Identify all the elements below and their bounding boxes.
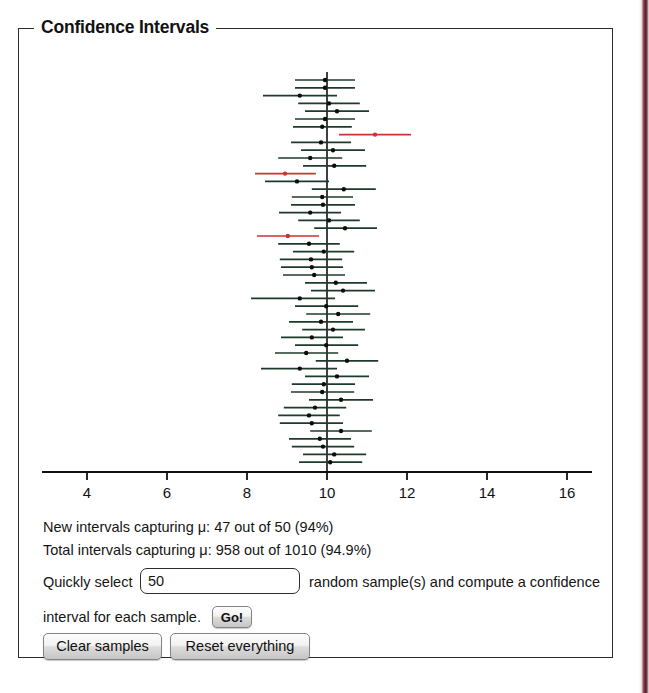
random-samples-label: random sample(s) and compute a confidenc… bbox=[309, 574, 600, 590]
sample-selection-row: Quickly select random sample(s) and comp… bbox=[43, 568, 603, 598]
page-title: Confidence Intervals bbox=[34, 17, 216, 38]
clear-samples-button[interactable]: Clear samples bbox=[43, 633, 162, 660]
sample-count-input[interactable] bbox=[140, 568, 300, 594]
reset-everything-button[interactable]: Reset everything bbox=[170, 633, 310, 660]
go-button[interactable]: Go! bbox=[212, 606, 252, 628]
confidence-intervals-groupbox bbox=[18, 28, 613, 658]
interval-for-each-label: interval for each sample. bbox=[43, 609, 201, 625]
quickly-select-label: Quickly select bbox=[43, 574, 132, 590]
total-intervals-stat: Total intervals capturing μ: 958 out of … bbox=[43, 542, 371, 558]
page-edge-stripe bbox=[639, 0, 649, 693]
new-intervals-stat: New intervals capturing μ: 47 out of 50 … bbox=[43, 519, 333, 535]
